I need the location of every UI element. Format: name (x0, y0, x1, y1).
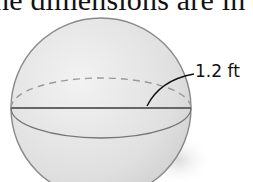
sphere-body (11, 18, 191, 182)
radius-label: 1.2 ft (195, 61, 240, 81)
sphere-figure (0, 0, 253, 182)
